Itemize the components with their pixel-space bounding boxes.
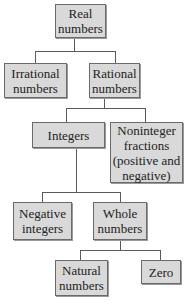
connector-integers-down [76, 148, 77, 192]
node-zero: Zero [141, 260, 181, 284]
node-real-numbers: Real numbers [55, 4, 106, 38]
connector-real-horizontal [35, 51, 115, 52]
node-noninteger-fractions: Noninteger fractions (positive and negat… [110, 122, 183, 183]
node-label: Integers [48, 128, 90, 143]
node-negative-integers: Negative integers [13, 202, 72, 240]
node-label: Irrational numbers [11, 66, 59, 96]
connector-to-whole [120, 192, 121, 202]
connector-whole-down [120, 240, 121, 250]
node-integers: Integers [32, 122, 105, 148]
connector-to-natural [80, 250, 81, 260]
node-whole-numbers: Whole numbers [93, 202, 147, 240]
node-label: Real numbers [58, 6, 103, 36]
node-label: Zero [149, 265, 174, 280]
connector-to-integers [66, 108, 67, 122]
connector-rational-horizontal [66, 108, 145, 109]
node-label: Whole numbers [98, 206, 143, 236]
connector-to-rational [115, 51, 116, 63]
connector-to-noninteger [145, 108, 146, 122]
node-irrational-numbers: Irrational numbers [4, 63, 67, 98]
node-rational-numbers: Rational numbers [89, 63, 140, 98]
node-label: Natural numbers [59, 263, 104, 293]
connector-to-negative [42, 192, 43, 202]
node-natural-numbers: Natural numbers [55, 260, 108, 296]
node-label: Noninteger fractions (positive and negat… [113, 123, 181, 183]
node-label: Negative integers [19, 206, 66, 236]
connector-real-down [74, 38, 75, 51]
connector-whole-horizontal [80, 250, 160, 251]
connector-to-irrational [35, 51, 36, 63]
node-label: Rational numbers [92, 66, 137, 96]
connector-integers-horizontal [42, 192, 121, 193]
connector-to-zero [160, 250, 161, 260]
